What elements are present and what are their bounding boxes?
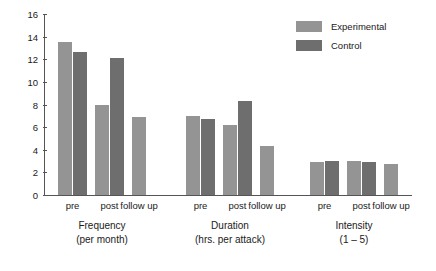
y-axis-tick-label: 6 bbox=[33, 122, 38, 133]
bar-experimental bbox=[347, 161, 361, 195]
x-axis-tick-label: follow up bbox=[120, 200, 158, 211]
y-axis-tick-mark bbox=[43, 195, 47, 196]
y-axis-tick-mark bbox=[43, 172, 47, 173]
group-label-frequency: Frequency(per month) bbox=[76, 219, 128, 247]
x-axis-tick-label: pre bbox=[194, 200, 208, 211]
group-label-unit: (per month) bbox=[76, 233, 128, 247]
y-axis-tick-mark bbox=[43, 105, 47, 106]
x-axis-tick-labels: prepostfollow upprepostfollow upprepostf… bbox=[44, 200, 412, 214]
bar-chart: Experimental Control 0246810121416 prepo… bbox=[0, 0, 436, 271]
bar-experimental bbox=[95, 105, 109, 196]
y-axis-tick-mark bbox=[43, 14, 47, 15]
x-axis-tick-label: post bbox=[229, 200, 247, 211]
bar-experimental bbox=[132, 117, 146, 195]
bar-control bbox=[110, 58, 124, 195]
y-axis-tick-label: 14 bbox=[27, 31, 38, 42]
bar-control bbox=[201, 119, 215, 195]
y-axis-tick-mark bbox=[43, 59, 47, 60]
group-label-intensity: Intensity(1 – 5) bbox=[335, 219, 372, 247]
x-axis-tick-label: pre bbox=[66, 200, 80, 211]
y-axis-tick-mark bbox=[43, 127, 47, 128]
bar-experimental bbox=[260, 146, 274, 195]
y-axis-labels: 0246810121416 bbox=[0, 14, 38, 196]
bar-experimental bbox=[223, 125, 237, 195]
group-label-unit: (hrs. per attack) bbox=[195, 233, 265, 247]
group-label-duration: Duration(hrs. per attack) bbox=[195, 219, 265, 247]
group-label-name: Frequency bbox=[76, 219, 128, 233]
y-axis-tick-label: 0 bbox=[33, 190, 38, 201]
x-axis-tick-label: follow up bbox=[372, 200, 410, 211]
y-axis-tick-mark bbox=[43, 37, 47, 38]
group-label-unit: (1 – 5) bbox=[335, 233, 372, 247]
bar-control bbox=[362, 162, 376, 195]
y-axis-tick-label: 10 bbox=[27, 76, 38, 87]
y-axis-tick-label: 8 bbox=[33, 99, 38, 110]
bar-experimental bbox=[384, 164, 398, 195]
y-axis-tick-mark bbox=[43, 82, 47, 83]
bar-experimental bbox=[186, 116, 200, 195]
bar-series-container bbox=[44, 14, 412, 195]
x-axis-group-labels: Frequency(per month)Duration(hrs. per at… bbox=[44, 219, 412, 259]
y-axis-tick-label: 12 bbox=[27, 54, 38, 65]
x-axis-line bbox=[44, 195, 412, 196]
bar-control bbox=[73, 52, 87, 195]
x-axis-tick-label: pre bbox=[318, 200, 332, 211]
bar-experimental bbox=[58, 42, 72, 195]
x-axis-tick-label: post bbox=[101, 200, 119, 211]
x-axis-tick-label: post bbox=[353, 200, 371, 211]
group-label-name: Intensity bbox=[335, 219, 372, 233]
y-axis-tick-label: 2 bbox=[33, 167, 38, 178]
bar-control bbox=[238, 101, 252, 195]
bar-experimental bbox=[310, 162, 324, 195]
bar-control bbox=[325, 161, 339, 196]
y-axis-tick-mark bbox=[43, 150, 47, 151]
x-axis-tick-label: follow up bbox=[248, 200, 286, 211]
plot-area bbox=[44, 14, 412, 196]
y-axis-tick-label: 16 bbox=[27, 9, 38, 20]
group-label-name: Duration bbox=[195, 219, 265, 233]
y-axis-tick-label: 4 bbox=[33, 144, 38, 155]
